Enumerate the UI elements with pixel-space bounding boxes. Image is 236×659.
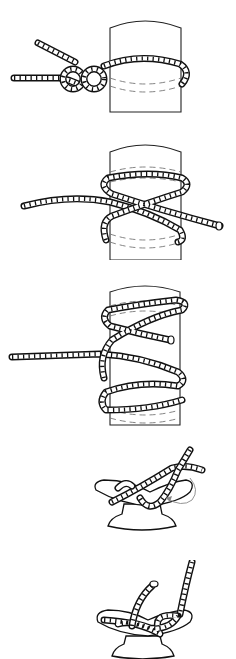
step-5-cleat-finished: [0, 560, 236, 659]
step-2-post-cross-turn: [0, 130, 236, 260]
step-1-post-half-hitches: [0, 0, 236, 130]
step-3-post-multiple-turns: [0, 260, 236, 430]
step-4-cleat-crossing: [0, 440, 236, 540]
post-icon: [110, 21, 181, 112]
